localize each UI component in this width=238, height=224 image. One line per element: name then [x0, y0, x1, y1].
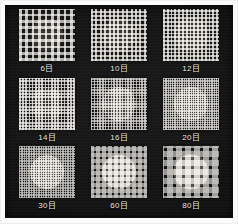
- mesh-sample-label: 20目: [182, 133, 200, 142]
- mesh-sample-cell: 30目: [11, 146, 83, 215]
- mesh-sample-label: 60目: [110, 201, 128, 210]
- mesh-weave: [91, 146, 147, 198]
- mesh-sample-label: 14目: [38, 133, 56, 142]
- mesh-sample-cell: 14目: [11, 78, 83, 147]
- mesh-sample-label: 30目: [38, 201, 56, 210]
- mesh-sample-label: 12目: [182, 64, 200, 73]
- mesh-swatch: [163, 78, 219, 130]
- mesh-swatch: [163, 9, 219, 61]
- mesh-sample-cell: 80目: [155, 146, 227, 215]
- mesh-weave: [19, 78, 75, 130]
- mesh-swatch: [91, 78, 147, 130]
- mesh-weave: [163, 78, 219, 130]
- photo-dark-panel: 6目 10目 12目: [5, 5, 233, 218]
- mesh-sample-cell: 6目: [11, 9, 83, 78]
- mesh-sample-cell: 16目: [83, 78, 155, 147]
- mesh-weave: [91, 9, 147, 61]
- mesh-sample-cell: 60目: [83, 146, 155, 215]
- mesh-sample-grid: 6目 10目 12目: [5, 5, 233, 218]
- mesh-swatch: [19, 146, 75, 198]
- mesh-swatch: [19, 9, 75, 61]
- mesh-sample-label: 80目: [182, 201, 200, 210]
- mesh-weave: [19, 9, 75, 61]
- mesh-swatch: [163, 146, 219, 198]
- mesh-swatch: [19, 78, 75, 130]
- mesh-sample-cell: 10目: [83, 9, 155, 78]
- mesh-sample-label: 6目: [41, 64, 54, 73]
- mesh-sample-photo: 6目 10目 12目: [0, 0, 238, 224]
- mesh-weave: [19, 146, 75, 198]
- mesh-swatch: [91, 146, 147, 198]
- mesh-swatch: [91, 9, 147, 61]
- mesh-weave: [163, 146, 219, 198]
- mesh-sample-label: 10目: [110, 64, 128, 73]
- mesh-sample-label: 16目: [110, 133, 128, 142]
- mesh-sample-cell: 12目: [155, 9, 227, 78]
- mesh-weave: [91, 78, 147, 130]
- mesh-sample-cell: 20目: [155, 78, 227, 147]
- mesh-weave: [163, 9, 219, 61]
